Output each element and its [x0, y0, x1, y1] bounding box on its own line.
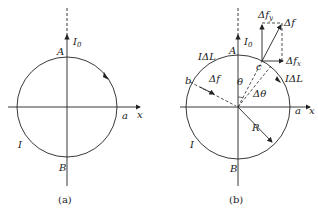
label-c: c — [256, 61, 262, 72]
label-loop-current: I — [189, 139, 195, 150]
label-A: A — [56, 46, 64, 57]
label-a: a — [295, 105, 301, 116]
label-I0: I0 — [72, 36, 82, 49]
caption-a: (a) — [58, 194, 72, 205]
label-R: R — [251, 122, 260, 133]
label-B: B — [58, 162, 66, 173]
angle-theta-arc — [238, 97, 243, 98]
figure-a: I0 A B a x I (a) — [8, 8, 143, 205]
label-b: b — [185, 75, 191, 86]
label-force-left: Δf — [208, 73, 222, 84]
caption-b: (b) — [229, 194, 243, 205]
force-arrow-left — [200, 87, 214, 94]
label-A: A — [228, 45, 236, 56]
label-force-x: Δfx — [285, 55, 301, 68]
label-force-resultant: Δf — [283, 17, 297, 28]
label-IdL-right: IΔL — [284, 73, 303, 84]
current-direction-arrow-icon — [103, 72, 109, 80]
figure-b: I0 A B a x b c IΔL IΔL θ Δθ R I Δf Δf Δf… — [180, 8, 315, 205]
label-B: B — [229, 163, 237, 174]
label-theta: θ — [237, 76, 243, 87]
diagram-canvas: I0 A B a x I (a) I0 A B a x b c IΔL — [0, 0, 318, 212]
label-x: x — [137, 109, 143, 120]
label-force-y: Δfy — [257, 9, 274, 22]
label-loop-current: I — [17, 139, 23, 150]
label-a: a — [122, 110, 128, 121]
force-resultant-arrow — [262, 25, 281, 61]
label-x: x — [309, 105, 315, 116]
label-IdL-left: IΔL — [197, 51, 216, 62]
label-I0: I0 — [243, 36, 253, 49]
label-delta-theta: Δθ — [252, 88, 266, 99]
